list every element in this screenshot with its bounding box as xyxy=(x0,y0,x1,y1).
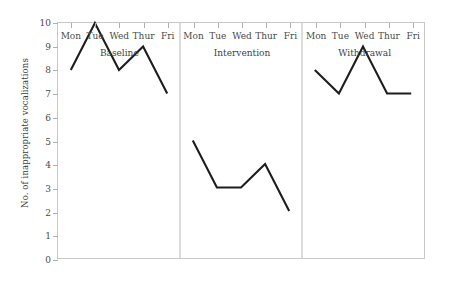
x-tick-label: Tue xyxy=(209,32,226,41)
y-tick-mark xyxy=(53,118,58,119)
x-tick-label: Wed xyxy=(232,32,252,41)
plot-area: 012345678910MonTueWedThurFriBaselineMonT… xyxy=(57,22,425,259)
x-tick-label: Thur xyxy=(378,32,400,41)
x-tick-mark xyxy=(119,23,120,28)
x-tick-label: Tue xyxy=(87,32,104,41)
x-tick-mark xyxy=(242,23,243,28)
y-tick-label: 1 xyxy=(45,232,51,241)
y-tick-label: 8 xyxy=(45,66,51,75)
y-tick-mark xyxy=(53,23,58,24)
y-tick-mark xyxy=(53,260,58,261)
phase-label-withdrawal: Withdrawal xyxy=(338,49,391,58)
y-tick-label: 7 xyxy=(45,90,51,99)
x-tick-mark xyxy=(365,23,366,28)
y-tick-label: 4 xyxy=(45,161,51,170)
data-line-group xyxy=(58,23,424,258)
y-tick-label: 3 xyxy=(45,184,51,193)
x-tick-mark xyxy=(266,23,267,28)
x-tick-label: Wed xyxy=(110,32,130,41)
x-tick-label: Mon xyxy=(183,32,203,41)
y-tick-mark xyxy=(53,47,58,48)
x-tick-mark xyxy=(218,23,219,28)
y-tick-mark xyxy=(53,213,58,214)
x-tick-label: Fri xyxy=(406,32,419,41)
y-tick-mark xyxy=(53,165,58,166)
y-tick-mark xyxy=(53,189,58,190)
y-tick-mark xyxy=(53,94,58,95)
y-tick-label: 5 xyxy=(45,137,51,146)
y-tick-mark xyxy=(53,236,58,237)
y-tick-label: 6 xyxy=(45,113,51,122)
x-tick-mark xyxy=(413,23,414,28)
x-tick-label: Mon xyxy=(306,32,326,41)
x-tick-label: Fri xyxy=(284,32,297,41)
x-tick-mark xyxy=(71,23,72,28)
phase-label-intervention: Intervention xyxy=(214,49,271,58)
y-axis-title: No. of inappropriate vocalizations xyxy=(20,33,30,233)
x-tick-mark xyxy=(95,23,96,28)
y-tick-label: 10 xyxy=(40,19,51,28)
y-tick-label: 2 xyxy=(45,208,51,217)
y-tick-mark xyxy=(53,70,58,71)
x-tick-mark xyxy=(168,23,169,28)
x-tick-mark xyxy=(194,23,195,28)
plot-inner: 012345678910MonTueWedThurFriBaselineMonT… xyxy=(58,23,424,258)
chart-root: No. of inappropriate vocalizations 01234… xyxy=(0,0,452,299)
x-tick-label: Tue xyxy=(332,32,349,41)
x-tick-label: Fri xyxy=(161,32,174,41)
x-tick-label: Mon xyxy=(61,32,81,41)
x-tick-mark xyxy=(340,23,341,28)
y-tick-label: 9 xyxy=(45,42,51,51)
x-tick-mark xyxy=(290,23,291,28)
y-tick-mark xyxy=(53,142,58,143)
y-tick-label: 0 xyxy=(45,256,51,265)
x-tick-label: Thur xyxy=(133,32,155,41)
x-tick-mark xyxy=(389,23,390,28)
x-tick-label: Thur xyxy=(255,32,277,41)
x-tick-mark xyxy=(316,23,317,28)
x-tick-label: Wed xyxy=(355,32,375,41)
x-tick-mark xyxy=(144,23,145,28)
phase-label-baseline: Baseline xyxy=(100,49,139,58)
data-line-intervention xyxy=(193,141,289,212)
